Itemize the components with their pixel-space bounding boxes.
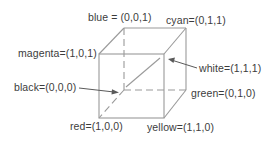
grey-diagonal xyxy=(126,58,160,87)
edge-yellow-green xyxy=(164,90,186,118)
label-green: green=(0,1,0) xyxy=(191,87,256,99)
hidden-edge-black-red xyxy=(99,90,124,118)
white-arrow xyxy=(168,58,197,69)
label-red: red=(1,0,0) xyxy=(70,120,123,132)
rgb-color-cube-diagram: blue = (0,0,1) cyan=(0,1,1) magenta=(1,0… xyxy=(0,0,272,146)
label-yellow: yellow=(1,1,0) xyxy=(147,121,214,133)
label-white: white=(1,1,1) xyxy=(199,62,261,74)
label-black: black=(0,0,0) xyxy=(14,81,76,93)
edge-white-cyan xyxy=(164,28,186,54)
label-blue: blue = (0,0,1) xyxy=(88,11,152,23)
label-magenta: magenta=(1,0,1) xyxy=(18,47,97,59)
label-cyan: cyan=(0,1,1) xyxy=(166,14,226,26)
edge-magenta-blue xyxy=(99,28,124,54)
